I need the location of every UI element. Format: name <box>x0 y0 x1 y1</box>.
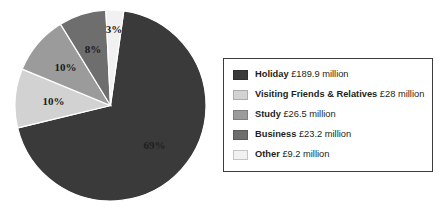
pie-slice-percent-label: 10% <box>42 95 64 107</box>
legend-category-name: Holiday <box>255 69 289 79</box>
legend-category-value: £9.2 million <box>280 149 330 159</box>
legend-label: Holiday £189.9 million <box>255 70 349 79</box>
legend-item[interactable]: Study £26.5 million <box>233 106 423 124</box>
pie-chart-figure: 69%10%10%8%3% Holiday £189.9 millionVisi… <box>0 0 448 209</box>
legend-item[interactable]: Other £9.2 million <box>233 146 423 164</box>
legend-category-value: £28 million <box>377 89 424 99</box>
legend-color-swatch <box>233 130 248 140</box>
legend-item[interactable]: Visiting Friends & Relatives £28 million <box>233 86 423 104</box>
pie-svg: 69%10%10%8%3% <box>14 9 207 202</box>
legend-color-swatch <box>233 70 248 80</box>
legend-label: Other £9.2 million <box>255 150 329 159</box>
pie-slice-percent-label: 8% <box>85 43 102 55</box>
legend-category-name: Visiting Friends & Relatives <box>255 89 377 99</box>
legend-category-name: Study <box>255 109 281 119</box>
legend-category-name: Other <box>255 149 280 159</box>
legend-category-name: Business <box>255 129 296 139</box>
pie-slice-percent-label: 10% <box>54 61 76 73</box>
legend-item[interactable]: Business £23.2 million <box>233 126 423 144</box>
legend-category-value: £26.5 million <box>281 109 336 119</box>
legend-color-swatch <box>233 90 248 100</box>
legend-label: Business £23.2 million <box>255 130 351 139</box>
legend-color-swatch <box>233 110 248 120</box>
legend-item[interactable]: Holiday £189.9 million <box>233 66 423 84</box>
pie-chart-plot-area: 69%10%10%8%3% <box>14 9 207 202</box>
legend-label: Study £26.5 million <box>255 110 336 119</box>
legend-label: Visiting Friends & Relatives £28 million <box>255 90 424 99</box>
legend-color-swatch <box>233 150 248 160</box>
chart-legend: Holiday £189.9 millionVisiting Friends &… <box>223 58 433 172</box>
legend-category-value: £23.2 million <box>296 129 351 139</box>
pie-slice-percent-label: 3% <box>106 23 123 35</box>
pie-slice-percent-label: 69% <box>143 139 165 151</box>
legend-category-value: £189.9 million <box>289 69 349 79</box>
